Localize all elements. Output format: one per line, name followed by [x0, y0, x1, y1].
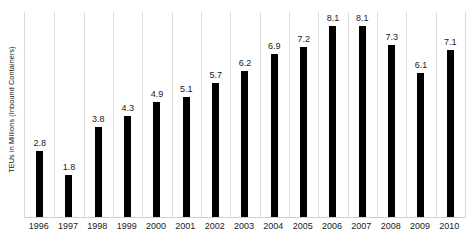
x-axis-tick-label: 2001 [175, 222, 195, 231]
bar-value-label: 4.9 [151, 90, 164, 99]
bar [153, 102, 160, 217]
bar [447, 50, 454, 217]
x-axis-tick-label: 2003 [234, 222, 254, 231]
bar-group: 8.1 [318, 12, 347, 217]
chart-screenshot: TEUs in Millions (Inbound Containers) 2.… [0, 0, 473, 248]
x-axis-tick-label: 2002 [205, 222, 225, 231]
bar-group: 6.2 [230, 12, 259, 217]
bar [388, 45, 395, 217]
bar [183, 97, 190, 217]
bar-value-label: 4.3 [121, 104, 134, 113]
bar [300, 47, 307, 217]
bar-group: 7.1 [436, 12, 465, 217]
bar-value-label: 8.1 [356, 14, 369, 23]
bar-group: 6.1 [406, 12, 435, 217]
bar-value-label: 2.8 [33, 139, 46, 148]
x-axis-tick-label: 2006 [322, 222, 342, 231]
bar-group: 1.8 [54, 12, 83, 217]
bar-value-label: 1.8 [63, 163, 76, 172]
bar-value-label: 5.7 [209, 71, 222, 80]
bars-layer: 2.81.83.84.34.95.15.76.26.97.28.18.17.36… [25, 12, 465, 217]
x-axis-tick-label: 1997 [58, 222, 78, 231]
bar [359, 26, 366, 217]
x-axis-tick-label: 2004 [263, 222, 283, 231]
bar-group: 5.1 [172, 12, 201, 217]
x-axis-tick-label: 2010 [439, 222, 459, 231]
x-axis-tick-label: 2007 [351, 222, 371, 231]
bar-value-label: 6.1 [415, 61, 428, 70]
x-axis-labels: 1996199719981999200020012002200320042005… [24, 222, 466, 242]
x-axis-tick-label: 1996 [29, 222, 49, 231]
bar-value-label: 3.8 [92, 115, 105, 124]
bar-group: 5.7 [201, 12, 230, 217]
bar-value-label: 5.1 [180, 85, 193, 94]
bar [36, 151, 43, 217]
bar-group: 3.8 [84, 12, 113, 217]
bar [329, 26, 336, 217]
x-axis-tick-label: 2000 [146, 222, 166, 231]
bar-value-label: 7.2 [297, 35, 310, 44]
x-axis-tick-label: 2009 [410, 222, 430, 231]
bar [271, 54, 278, 217]
x-axis-tick-label: 1999 [117, 222, 137, 231]
bar [95, 127, 102, 217]
bar-group: 7.3 [377, 12, 406, 217]
x-axis-tick-label: 1998 [87, 222, 107, 231]
bar-group: 4.9 [142, 12, 171, 217]
bar [417, 73, 424, 217]
bar-value-label: 7.1 [444, 38, 457, 47]
bar-value-label: 7.3 [385, 33, 398, 42]
y-axis-title-label: TEUs in Millions (Inbound Containers) [7, 46, 16, 173]
bar-value-label: 6.2 [239, 59, 252, 68]
bar-group: 8.1 [348, 12, 377, 217]
bar-group: 7.2 [289, 12, 318, 217]
bar [65, 175, 72, 217]
plot-area: 2.81.83.84.34.95.15.76.26.97.28.18.17.36… [24, 12, 466, 218]
bar-value-label: 8.1 [327, 14, 340, 23]
bar-group: 4.3 [113, 12, 142, 217]
y-axis-title: TEUs in Millions (Inbound Containers) [0, 0, 22, 218]
bar [212, 83, 219, 217]
bar [124, 116, 131, 217]
bar-value-label: 6.9 [268, 42, 281, 51]
bar-group: 2.8 [25, 12, 54, 217]
bar [241, 71, 248, 217]
bar-group: 6.9 [260, 12, 289, 217]
x-axis-tick-label: 2008 [381, 222, 401, 231]
x-axis-tick-label: 2005 [293, 222, 313, 231]
